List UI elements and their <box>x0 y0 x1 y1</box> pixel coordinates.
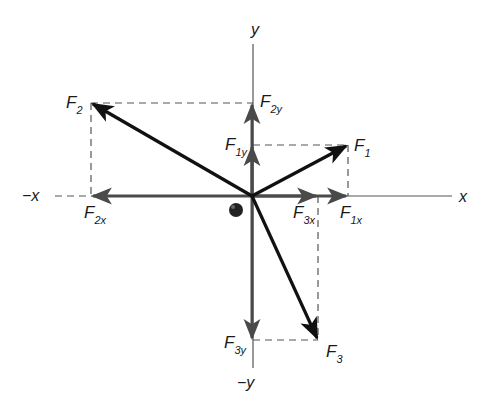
f1x-label: F1x <box>340 203 363 226</box>
x-axis-label: x <box>458 188 468 205</box>
f2y-label: F2y <box>260 92 284 115</box>
object-dot <box>229 203 243 217</box>
vector-diagram: x −x y −y F1 F2 F3 F1x F2x F3x F2 <box>0 0 480 407</box>
f2-label: F2 <box>66 93 83 116</box>
f1-label: F1 <box>354 136 371 159</box>
object-dot-highlight <box>231 205 235 209</box>
f1y-label: F1y <box>225 135 249 158</box>
neg-y-axis-label: −y <box>237 374 255 391</box>
f3x-label: F3x <box>293 203 316 226</box>
neg-x-axis-label: −x <box>22 187 40 204</box>
f1-vector <box>252 146 346 196</box>
f3-label: F3 <box>326 342 343 365</box>
f2x-label: F2x <box>84 203 107 226</box>
y-axis-label: y <box>250 21 260 38</box>
f3y-label: F3y <box>224 333 248 356</box>
force-labels: F1 F2 F3 F1x F2x F3x F2y F1y F3y <box>66 92 371 365</box>
